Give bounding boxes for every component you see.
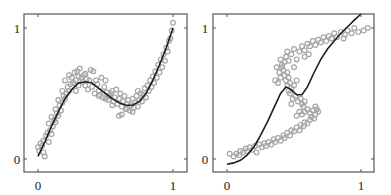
data-point bbox=[294, 57, 299, 62]
data-point bbox=[102, 85, 107, 90]
data-point bbox=[73, 89, 78, 94]
data-point bbox=[289, 102, 294, 107]
data-point bbox=[278, 75, 283, 80]
data-point bbox=[297, 49, 302, 54]
scatter-points bbox=[36, 20, 176, 158]
data-point bbox=[46, 140, 51, 145]
data-point bbox=[313, 43, 318, 48]
data-point bbox=[122, 94, 127, 99]
data-point bbox=[160, 65, 165, 70]
y-tick-label-0: 0 bbox=[14, 152, 21, 167]
data-point bbox=[63, 78, 68, 83]
data-point bbox=[103, 78, 108, 83]
figure: 0 1 0 1 0 1 0 1 bbox=[0, 0, 391, 195]
data-point bbox=[306, 52, 311, 57]
data-point bbox=[294, 113, 299, 118]
x-tick-label-0: 0 bbox=[35, 178, 42, 193]
data-point bbox=[324, 39, 329, 44]
data-point bbox=[349, 31, 354, 36]
plot-frame bbox=[213, 14, 374, 172]
data-point bbox=[365, 26, 370, 31]
right-plot-panel: 0 1 0 1 bbox=[202, 14, 374, 193]
y-tick-label-1: 1 bbox=[202, 21, 209, 36]
data-point bbox=[294, 78, 299, 83]
x-tick-label-1: 1 bbox=[170, 178, 177, 193]
x-tick-label-0: 0 bbox=[224, 178, 231, 193]
data-point bbox=[277, 70, 282, 75]
x-tick-label-1: 1 bbox=[358, 178, 365, 193]
data-point bbox=[302, 48, 307, 53]
scatter-points bbox=[227, 26, 370, 159]
data-point bbox=[254, 150, 259, 155]
data-point bbox=[171, 20, 176, 25]
data-point bbox=[285, 49, 290, 54]
data-point bbox=[292, 65, 297, 70]
data-point bbox=[356, 30, 361, 35]
left-plot-panel: 0 1 0 1 bbox=[14, 14, 187, 193]
fit-curve bbox=[38, 28, 173, 156]
data-point bbox=[292, 47, 297, 52]
y-tick-label-1: 1 bbox=[14, 21, 21, 36]
data-point bbox=[352, 26, 357, 31]
data-point bbox=[274, 65, 279, 70]
data-point bbox=[278, 57, 283, 62]
y-tick-label-0: 0 bbox=[202, 152, 209, 167]
